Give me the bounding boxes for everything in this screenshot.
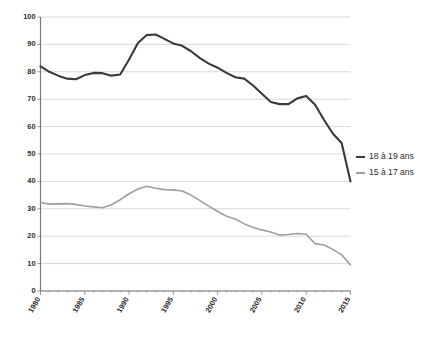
x-axis-label-1995: 1995 <box>159 296 175 315</box>
x-axis-label-1985: 1985 <box>70 296 86 315</box>
y-axis-label-10: 10 <box>27 259 35 268</box>
legend-label-15-17-ans: 15 à 17 ans <box>369 167 414 177</box>
y-axis-label-70: 70 <box>27 94 35 103</box>
gridlines-group <box>41 17 351 291</box>
y-axis-label-50: 50 <box>27 149 35 158</box>
x-axis-label-2015: 2015 <box>336 296 352 315</box>
series-line-15-17-ans <box>41 186 351 265</box>
x-axis-label-2005: 2005 <box>248 296 264 315</box>
y-axis-label-30: 30 <box>27 204 35 213</box>
chart-legend: 18 à 19 ans15 à 17 ans <box>356 151 414 177</box>
y-axis-label-0: 0 <box>31 286 35 295</box>
x-axis-label-1980: 1980 <box>26 296 42 315</box>
y-axis-labels: 0102030405060708090100 <box>23 12 35 295</box>
y-axis-label-20: 20 <box>27 231 35 240</box>
line-chart: 0102030405060708090100 19801985199019952… <box>0 0 434 338</box>
legend-label-18-19-ans: 18 à 19 ans <box>369 151 414 161</box>
x-axis-labels: 19801985199019952000200520102015 <box>26 296 352 315</box>
y-axis-label-40: 40 <box>27 176 35 185</box>
y-axis-label-80: 80 <box>27 67 35 76</box>
y-axis-label-60: 60 <box>27 122 35 131</box>
x-axis-label-2010: 2010 <box>292 296 308 315</box>
y-axis-label-90: 90 <box>27 39 35 48</box>
x-axis-label-2000: 2000 <box>203 296 219 315</box>
y-axis-label-100: 100 <box>23 12 35 21</box>
series-group <box>41 35 351 265</box>
series-line-18-19-ans <box>41 35 351 182</box>
x-axis-label-1990: 1990 <box>115 296 131 315</box>
